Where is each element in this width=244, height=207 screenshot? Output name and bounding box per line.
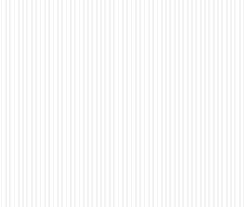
photograph-figure xyxy=(0,0,244,207)
caption-partial-text xyxy=(0,190,244,207)
potato-photograph xyxy=(0,0,244,207)
